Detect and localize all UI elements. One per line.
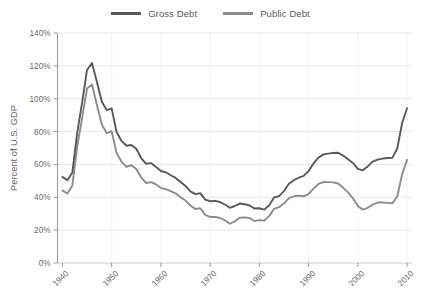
y-tick-label: 80% bbox=[0, 127, 51, 136]
y-tick-label: 40% bbox=[0, 193, 51, 202]
y-tick-label: 60% bbox=[0, 160, 51, 169]
series-line-gross-debt bbox=[62, 63, 407, 210]
y-tick-label: 140% bbox=[0, 29, 51, 38]
y-tick-label: 100% bbox=[0, 94, 51, 103]
series-line-public-debt bbox=[62, 85, 407, 224]
plot-canvas bbox=[0, 0, 421, 297]
plot-area: Percent of U.S. GDP 0%20%40%60%80%100%12… bbox=[0, 0, 421, 297]
y-axis-title: Percent of U.S. GDP bbox=[9, 58, 19, 238]
y-tick-label: 0% bbox=[0, 259, 51, 268]
debt-to-gdp-chart: Gross Debt Public Debt Percent of U.S. G… bbox=[0, 0, 421, 297]
y-tick-label: 20% bbox=[0, 226, 51, 235]
y-tick-label: 120% bbox=[0, 61, 51, 70]
